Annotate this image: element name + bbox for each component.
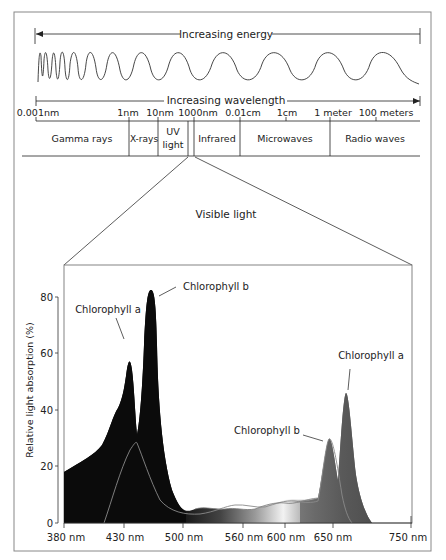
label-chlorophyll-a-blue: Chlorophyll a: [75, 304, 141, 315]
y-tick-label: 20: [40, 461, 53, 472]
y-ticks: [55, 297, 58, 523]
band-x-rays: X-rays: [130, 134, 159, 144]
wavelength-label: Increasing wavelength: [167, 94, 286, 106]
tick-label: 0.001nm: [17, 107, 59, 118]
arrow-right-icon: [413, 98, 420, 104]
tick-label: 1000nm: [178, 107, 217, 118]
wavelength-tick-labels: 0.001nm 1nm 10nm 1000nm 0.01cm 1cm 1 met…: [17, 107, 414, 118]
y-tick-labels: 0 20 40 60 80: [40, 292, 53, 529]
x-tick-label: 560 nm: [225, 532, 263, 543]
energy-arrow: Increasing energy: [35, 28, 420, 44]
band-gamma-rays: Gamma rays: [52, 133, 113, 144]
tick-label: 1 meter: [314, 107, 352, 118]
wavelength-arrow: Increasing wavelength: [36, 94, 420, 106]
y-tick-label: 40: [40, 405, 53, 416]
band-uv-line1: UV: [166, 126, 180, 137]
electromagnetic-spectrum-figure: Increasing energy Increasing wavelength …: [0, 0, 446, 560]
visible-light-label: Visible light: [196, 208, 257, 220]
y-tick-label: 80: [40, 292, 53, 303]
label-chlorophyll-b-blue: Chlorophyll b: [183, 281, 249, 292]
tick-label: 0.01cm: [225, 107, 261, 118]
label-chlorophyll-a-red: Chlorophyll a: [338, 350, 404, 361]
x-tick-label: 750 nm: [389, 532, 427, 543]
x-tick-label: 500 nm: [165, 532, 203, 543]
y-tick-label: 0: [47, 518, 53, 529]
band-radio-waves: Radio waves: [345, 133, 405, 144]
x-tick-label: 430 nm: [106, 532, 144, 543]
tick-label: 1nm: [117, 107, 138, 118]
y-tick-label: 60: [40, 348, 53, 359]
wave-graphic: [38, 52, 419, 84]
x-tick-label: 380 nm: [47, 532, 85, 543]
band-microwaves: Microwaves: [257, 133, 313, 144]
x-tick-labels: 380 nm 430 nm 500 nm 560 nm 600 nm 650 n…: [47, 532, 427, 543]
tick-label: 1cm: [277, 107, 298, 118]
band-infrared: Infrared: [198, 133, 235, 144]
tick-label: 10nm: [146, 107, 173, 118]
band-uv-line2: light: [162, 139, 183, 150]
x-tick-label: 600 nm: [267, 532, 305, 543]
y-axis-label: Relative light absorption (%): [24, 322, 35, 458]
energy-label: Increasing energy: [179, 28, 273, 40]
x-tick-label: 650 nm: [314, 532, 352, 543]
tick-label: 100 meters: [359, 107, 414, 118]
label-chlorophyll-b-red: Chlorophyll b: [234, 425, 300, 436]
blue-peaks-fill: [64, 290, 186, 523]
band-labels: Gamma rays X-rays UV light Infrared Micr…: [52, 126, 405, 150]
absorption-chart: 0 20 40 60 80 Relative light absorption …: [24, 265, 427, 543]
arrow-left-icon: [36, 31, 43, 37]
